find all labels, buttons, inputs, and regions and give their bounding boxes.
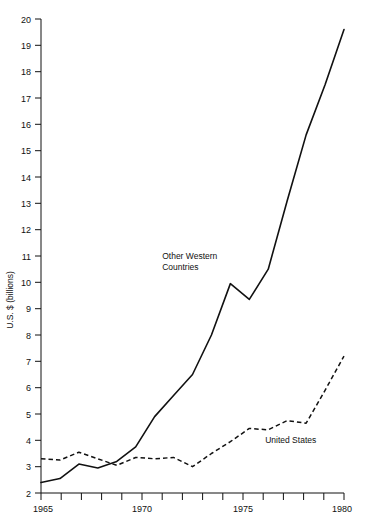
x-tick-label: 1965: [33, 504, 53, 514]
y-tick-label: 14: [21, 173, 31, 183]
x-tick-label: 1970: [132, 504, 152, 514]
x-axis-tick-labels: 1965 1970 1975 1980: [33, 504, 352, 514]
x-axis-ticks: [41, 493, 344, 500]
y-tick-label: 4: [26, 436, 31, 446]
chart-canvas: 20 19 18 17 16 15 14 13 12 11 10 9 8 7 6…: [0, 0, 368, 525]
y-tick-label: 8: [26, 331, 31, 341]
line-chart: 20 19 18 17 16 15 14 13 12 11 10 9 8 7 6…: [0, 0, 368, 525]
y-axis-title: U.S. $ (billions): [5, 271, 15, 329]
y-tick-label: 6: [26, 383, 31, 393]
y-tick-label: 19: [21, 41, 31, 51]
y-tick-label: 12: [21, 225, 31, 235]
y-axis-ticks: [35, 19, 41, 493]
y-tick-label: 13: [21, 199, 31, 209]
x-tick-label: 1980: [332, 504, 352, 514]
y-tick-label: 5: [26, 410, 31, 420]
y-axis-tick-labels: 20 19 18 17 16 15 14 13 12 11 10 9 8 7 6…: [21, 15, 31, 499]
y-tick-label: 3: [26, 462, 31, 472]
y-tick-label: 17: [21, 94, 31, 104]
y-tick-label: 20: [21, 15, 31, 25]
other-western-countries-label-line1: Other Western: [162, 251, 217, 261]
y-tick-label: 18: [21, 67, 31, 77]
y-tick-label: 7: [26, 357, 31, 367]
y-tick-label: 9: [26, 304, 31, 314]
annotation-united-states: United States: [265, 435, 316, 445]
annotation-other-western-countries: Other Western Countries: [162, 251, 217, 272]
y-tick-label: 15: [21, 146, 31, 156]
x-tick-label: 1975: [233, 504, 253, 514]
united-states-label: United States: [265, 435, 316, 445]
y-tick-label: 16: [21, 120, 31, 130]
other-western-countries-label-line2: Countries: [162, 262, 198, 272]
y-tick-label: 2: [26, 489, 31, 499]
y-tick-label: 10: [21, 278, 31, 288]
y-tick-label: 11: [22, 252, 31, 262]
